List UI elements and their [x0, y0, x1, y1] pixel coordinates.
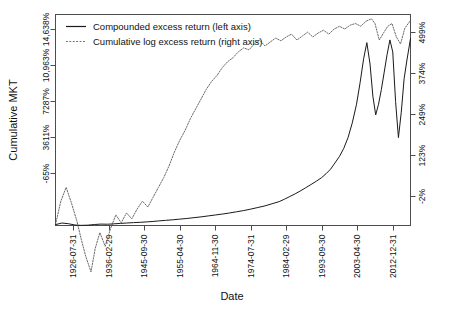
right-tick-label-1: 123% — [417, 144, 427, 166]
chart-legend: Compounded excess return (left axis) Cum… — [66, 21, 262, 47]
x-tick-label-6: 1984-02-29 — [281, 234, 291, 278]
x-tick-label-7: 1993-09-30 — [317, 234, 327, 278]
x-tick-label-2: 1945-09-30 — [139, 234, 149, 278]
x-tick-label-0: 1926-07-31 — [68, 234, 78, 278]
left-tick-label-0: -65% — [41, 163, 51, 183]
right-tick-label-2: 249% — [417, 103, 427, 125]
x-tick-label-1: 1936-02-29 — [104, 234, 114, 278]
right-axis-tick-labels: -2% 123% 249% 374% 499% — [417, 21, 427, 204]
legend-label-cumulative-log: Cumulative log excess return (right axis… — [93, 36, 262, 47]
left-axis-ticks — [51, 30, 56, 174]
x-axis-ticks — [74, 226, 394, 231]
x-tick-label-5: 1974-07-31 — [246, 234, 256, 278]
left-tick-label-1: 3611% — [41, 124, 51, 150]
right-axis-ticks — [411, 33, 416, 197]
x-tick-label-9: 2012-12-31 — [388, 234, 398, 278]
legend-label-compounded: Compounded excess return (left axis) — [93, 21, 251, 32]
series-compounded-excess-return — [56, 39, 411, 226]
y-axis-title: Cumulative MKT — [7, 79, 19, 161]
right-tick-label-0: -2% — [417, 189, 427, 205]
x-axis-tick-labels: 1926-07-311936-02-291945-09-301955-04-30… — [68, 234, 398, 278]
right-tick-label-3: 374% — [417, 62, 427, 84]
left-axis-tick-labels: -65% 3611% 7287% 10,963% 14,638% — [41, 12, 51, 183]
x-tick-label-3: 1955-04-30 — [175, 234, 185, 278]
x-axis-title: Date — [220, 290, 243, 302]
cumulative-mkt-line-chart: -65% 3611% 7287% 10,963% 14,638% Cumulat… — [0, 0, 460, 317]
left-tick-label-4: 14,638% — [41, 12, 51, 46]
series-cumulative-log-excess-return — [56, 19, 411, 272]
right-tick-label-4: 499% — [417, 21, 427, 43]
left-tick-label-2: 7287% — [41, 88, 51, 115]
chart-figure: -65% 3611% 7287% 10,963% 14,638% Cumulat… — [0, 0, 460, 317]
x-tick-label-8: 2003-04-30 — [352, 234, 362, 278]
left-tick-label-3: 10,963% — [41, 48, 51, 82]
x-tick-label-4: 1964-11-30 — [210, 234, 220, 277]
